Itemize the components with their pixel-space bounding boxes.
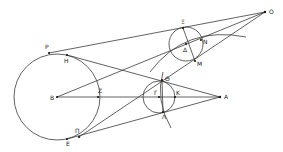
point-O bbox=[264, 11, 266, 13]
point-M bbox=[194, 60, 196, 62]
label-N: N bbox=[203, 38, 208, 45]
point-B bbox=[56, 96, 58, 98]
label-P: P bbox=[45, 43, 49, 50]
line-P-O bbox=[49, 12, 265, 53]
label-Z: Z bbox=[98, 87, 102, 94]
point-Z bbox=[97, 96, 99, 98]
point-Xi bbox=[182, 27, 184, 29]
line-E-A bbox=[67, 97, 220, 139]
label-M: M bbox=[197, 60, 202, 67]
label-K: K bbox=[176, 89, 181, 96]
line-Pi-O bbox=[79, 12, 265, 137]
label-Pi: Π bbox=[75, 127, 80, 134]
point-N bbox=[200, 39, 202, 41]
label-H: H bbox=[64, 57, 69, 64]
point-Theta bbox=[161, 79, 163, 81]
point-P bbox=[48, 52, 50, 54]
point-Pi bbox=[78, 136, 80, 138]
label-O: O bbox=[269, 8, 274, 15]
geometry-diagram: O P H B Z Π E Ξ Δ N M Θ Γ K Λ A bbox=[0, 0, 283, 152]
point-Delta bbox=[185, 43, 187, 45]
point-A bbox=[219, 96, 221, 98]
label-Delta: Δ bbox=[183, 46, 188, 53]
label-A: A bbox=[224, 93, 229, 100]
label-Theta: Θ bbox=[165, 75, 170, 82]
label-E: E bbox=[66, 140, 70, 147]
label-Gamma: Γ bbox=[154, 89, 158, 96]
label-Xi: Ξ bbox=[181, 18, 185, 25]
point-K bbox=[174, 96, 176, 98]
point-H bbox=[66, 54, 68, 56]
label-B: B bbox=[50, 94, 54, 101]
point-Gamma bbox=[158, 96, 160, 98]
